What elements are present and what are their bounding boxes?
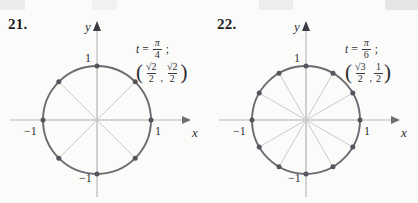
- coordinate-y-fraction-22: 1 2: [374, 62, 383, 84]
- marked-point-270deg: [304, 172, 309, 177]
- t-symbol-21: t: [136, 43, 139, 55]
- left-paren-21: (: [136, 64, 143, 82]
- coordinate-separator-22: ,: [370, 73, 373, 85]
- y-axis-label-21: y: [85, 19, 91, 35]
- annotation-22-line1: t = π 6 ;: [345, 38, 391, 60]
- coordinate-y-numerator-21: √2: [165, 62, 180, 72]
- t-value-numerator-21: π: [153, 38, 162, 48]
- t-value-numerator-22: π: [362, 38, 371, 48]
- marked-point-90deg: [95, 64, 100, 69]
- x-tick-negative-21: −1: [24, 124, 37, 139]
- coordinate-x-numerator-22: √3: [353, 62, 368, 72]
- x-axis-arrowhead: [182, 116, 191, 124]
- y-axis-label-22: y: [294, 19, 300, 35]
- y-tick-negative-22: −1: [288, 171, 301, 186]
- t-value-fraction-21: π 4: [153, 38, 162, 60]
- semicolon-22: ;: [375, 43, 378, 55]
- marked-point-315deg: [133, 156, 138, 161]
- unit-circle-plot-22: [209, 0, 418, 203]
- coordinate-y-denominator-22: 2: [374, 73, 383, 84]
- exercise-21-figure: 21.: [0, 0, 209, 203]
- marked-point-135deg: [56, 79, 61, 84]
- right-paren-21: ): [181, 64, 188, 82]
- y-axis-arrowhead: [302, 21, 310, 31]
- x-tick-negative-22: −1: [233, 124, 246, 139]
- coordinate-y-denominator-21: 2: [168, 73, 177, 84]
- left-paren-22: (: [345, 64, 352, 82]
- y-axis-arrowhead: [93, 21, 101, 31]
- annotation-22: t = π 6 ; ( √3 2 , 1 2 ): [345, 38, 391, 84]
- annotation-22-line2: ( √3 2 , 1 2 ): [345, 62, 391, 84]
- x-axis-label-21: x: [192, 125, 198, 141]
- marked-point-300deg: [331, 164, 336, 169]
- annotation-21-line2: ( √2 2 , √2 2 ): [136, 62, 188, 84]
- coordinate-x-fraction-21: √2 2: [144, 62, 159, 84]
- marked-point-30deg: [350, 91, 355, 96]
- coordinate-x-numerator-21: √2: [144, 62, 159, 72]
- coordinate-x-fraction-22: √3 2: [353, 62, 368, 84]
- coordinate-y-numerator-22: 1: [374, 62, 383, 72]
- marked-point-0deg: [149, 118, 154, 123]
- marked-point-0deg: [358, 118, 363, 123]
- marked-point-210deg: [257, 145, 262, 150]
- marked-point-225deg: [56, 156, 61, 161]
- coordinate-separator-21: ,: [161, 73, 164, 85]
- y-tick-positive-21: 1: [85, 51, 91, 66]
- semicolon-21: ;: [166, 43, 169, 55]
- x-axis-label-22: x: [401, 125, 407, 141]
- t-symbol-22: t: [345, 43, 348, 55]
- coordinate-y-fraction-21: √2 2: [165, 62, 180, 84]
- unit-circle-plot-21: [0, 0, 209, 203]
- marked-point-180deg: [41, 118, 46, 123]
- right-paren-22: ): [384, 64, 391, 82]
- marked-point-90deg: [304, 64, 309, 69]
- x-tick-positive-22: 1: [364, 124, 370, 139]
- x-tick-positive-21: 1: [155, 124, 161, 139]
- marked-point-120deg: [277, 71, 282, 76]
- coordinate-x-denominator-21: 2: [147, 73, 156, 84]
- t-value-denominator-22: 6: [362, 49, 371, 60]
- marked-point-330deg: [350, 145, 355, 150]
- exercise-22-figure: 22.: [209, 0, 418, 203]
- y-tick-negative-21: −1: [79, 171, 92, 186]
- t-value-denominator-21: 4: [153, 49, 162, 60]
- marked-point-270deg: [95, 172, 100, 177]
- equals-sign-22: =: [351, 43, 358, 55]
- marked-point-150deg: [257, 91, 262, 96]
- annotation-21-line1: t = π 4 ;: [136, 38, 188, 60]
- marked-point-240deg: [277, 164, 282, 169]
- equals-sign-21: =: [142, 43, 149, 55]
- coordinate-x-denominator-22: 2: [356, 73, 365, 84]
- x-axis-arrowhead: [391, 116, 400, 124]
- textbook-page: 21.: [0, 0, 418, 203]
- marked-point-60deg: [331, 71, 336, 76]
- y-tick-positive-22: 1: [294, 51, 300, 66]
- marked-point-180deg: [250, 118, 255, 123]
- t-value-fraction-22: π 6: [362, 38, 371, 60]
- annotation-21: t = π 4 ; ( √2 2 , √2 2 ): [136, 38, 188, 84]
